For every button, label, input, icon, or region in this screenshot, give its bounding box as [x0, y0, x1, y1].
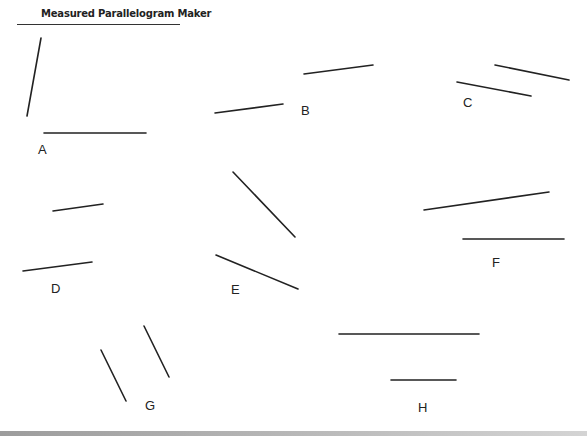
figure-label-h: H — [418, 401, 427, 414]
figure-c — [457, 65, 569, 96]
segment-b-2 — [215, 104, 283, 113]
figure-label-g: G — [145, 399, 155, 412]
figure-a — [27, 38, 146, 133]
segment-c-1 — [495, 65, 569, 80]
segment-e-1 — [233, 172, 295, 237]
segment-c-2 — [457, 82, 531, 96]
figure-label-d: D — [51, 282, 60, 295]
segment-e-2 — [216, 255, 298, 289]
figure-h — [339, 334, 479, 380]
figure-label-f: F — [492, 256, 500, 269]
segment-d-1 — [53, 204, 103, 211]
segment-a-1 — [27, 38, 41, 116]
bottom-scrollbar-strip — [0, 431, 587, 436]
segment-g-2 — [101, 350, 126, 401]
figure-g — [101, 326, 169, 401]
figure-label-e: E — [231, 283, 240, 296]
segment-b-1 — [304, 65, 373, 74]
segment-f-1 — [424, 192, 549, 210]
figure-b — [215, 65, 373, 113]
figure-e — [216, 172, 298, 289]
segment-g-1 — [144, 326, 169, 377]
figures-canvas — [0, 0, 587, 436]
figure-label-c: C — [463, 96, 472, 109]
segment-d-2 — [23, 262, 92, 271]
figure-label-a: A — [38, 143, 47, 156]
figure-d — [23, 204, 103, 271]
figure-f — [424, 192, 564, 239]
figure-label-b: B — [301, 104, 310, 117]
